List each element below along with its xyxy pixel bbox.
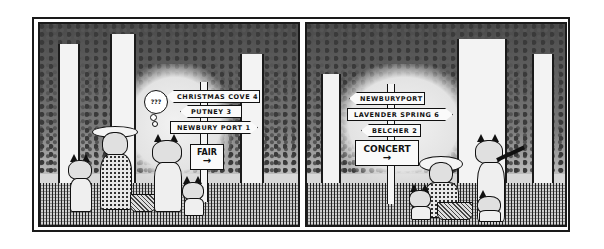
fair-board: FAIR → <box>190 144 224 170</box>
thought-bubble: ??? <box>144 90 168 114</box>
character-small-fox <box>475 190 503 220</box>
character-small-animal <box>64 154 94 214</box>
character-puzzled-fox <box>148 134 184 214</box>
body <box>411 206 431 220</box>
body <box>70 178 92 212</box>
body <box>184 198 204 216</box>
head <box>68 160 92 180</box>
comic-panel-2: NEWBURYPORT 2 LAVENDER SPRING 6 BELCHER … <box>305 22 567 227</box>
arrow-right-icon: → <box>191 157 223 165</box>
sign-belcher: BELCHER 2 <box>361 124 421 137</box>
sign-putney: PUTNEY 3 <box>180 105 242 118</box>
comic-panel-1: CHRISTMAS COVE 4 PUTNEY 3 NEWBURY PORT 1… <box>38 22 300 227</box>
thought-bubble-dot <box>152 121 158 127</box>
sign-newbury-port: NEWBURY PORT 1 <box>170 121 258 134</box>
head <box>429 162 453 184</box>
sign-newburyport: NEWBURYPORT 2 <box>349 92 425 105</box>
thought-bubble-dot <box>150 114 157 121</box>
head <box>102 132 128 156</box>
sign-lavender-spring: LAVENDER SPRING 6 <box>347 108 453 121</box>
head <box>152 140 182 164</box>
sign-christmas-cove: CHRISTMAS COVE 4 <box>166 90 260 103</box>
character-small-cat <box>180 176 206 214</box>
body-dotted-dress <box>100 154 132 210</box>
body <box>154 162 182 212</box>
body <box>479 210 501 222</box>
concert-board: CONCERT → <box>355 140 419 166</box>
character-small-cat <box>407 184 433 218</box>
arrow-right-icon: → <box>356 154 418 162</box>
